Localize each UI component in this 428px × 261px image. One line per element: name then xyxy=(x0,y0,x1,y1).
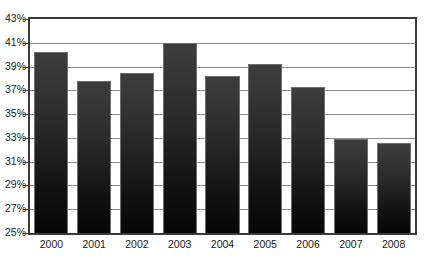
x-axis-tick-label: 2004 xyxy=(201,239,244,250)
y-axis-tick xyxy=(23,138,28,139)
bar xyxy=(248,64,282,233)
bar-chart: 25%27%29%31%33%35%37%39%41%43% 200020012… xyxy=(0,0,428,261)
x-axis-tick-label: 2006 xyxy=(287,239,330,250)
x-axis-tick-label: 2000 xyxy=(30,239,73,250)
x-axis-tick-label: 2007 xyxy=(329,239,372,250)
bar xyxy=(34,52,68,233)
bar xyxy=(334,139,368,233)
y-axis-tick xyxy=(23,90,28,91)
y-axis-tick xyxy=(23,67,28,68)
plot-area xyxy=(28,17,417,235)
x-axis-tick-label: 2003 xyxy=(158,239,201,250)
y-axis-tick xyxy=(23,185,28,186)
bar xyxy=(377,143,411,233)
y-axis-tick-label: 31% xyxy=(0,156,26,167)
x-axis-tick-label: 2005 xyxy=(244,239,287,250)
x-axis-tick-label: 2001 xyxy=(73,239,116,250)
x-axis-tick-label: 2002 xyxy=(116,239,159,250)
x-axis-tick-label: 2008 xyxy=(372,239,415,250)
y-axis-tick xyxy=(23,162,28,163)
y-axis-tick xyxy=(23,19,28,20)
y-axis-tick xyxy=(23,43,28,44)
y-axis-tick xyxy=(23,209,28,210)
y-axis-tick xyxy=(23,233,28,234)
bar xyxy=(120,73,154,234)
y-axis-tick xyxy=(23,114,28,115)
bars-layer xyxy=(30,19,415,233)
bar xyxy=(291,87,325,233)
bar xyxy=(163,43,197,233)
y-axis-tick-label: 39% xyxy=(0,61,26,72)
bar xyxy=(205,76,239,233)
bar xyxy=(77,81,111,233)
